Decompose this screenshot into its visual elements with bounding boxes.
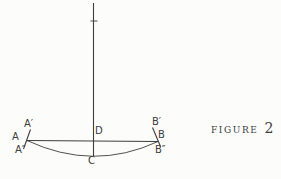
label-c: C xyxy=(88,156,95,166)
figure-caption: FIGURE 2 xyxy=(211,121,273,137)
arc-ACB xyxy=(27,141,158,157)
label-b-prime: B′ xyxy=(152,117,161,127)
figure-2-diagram: A′ A A″ D C B′ B B″ FIGURE 2 xyxy=(0,0,281,179)
label-b: B xyxy=(158,130,165,140)
label-b-double-prime: B″ xyxy=(155,145,166,155)
figure-caption-number: 2 xyxy=(265,121,274,135)
label-a: A xyxy=(12,132,19,142)
chord-AB-line xyxy=(27,141,158,142)
label-d: D xyxy=(95,126,103,136)
figure-caption-word: FIGURE xyxy=(211,124,259,137)
label-a-prime: A′ xyxy=(24,119,33,129)
label-a-double-prime: A″ xyxy=(15,145,26,155)
diagram-canvas xyxy=(0,0,281,179)
